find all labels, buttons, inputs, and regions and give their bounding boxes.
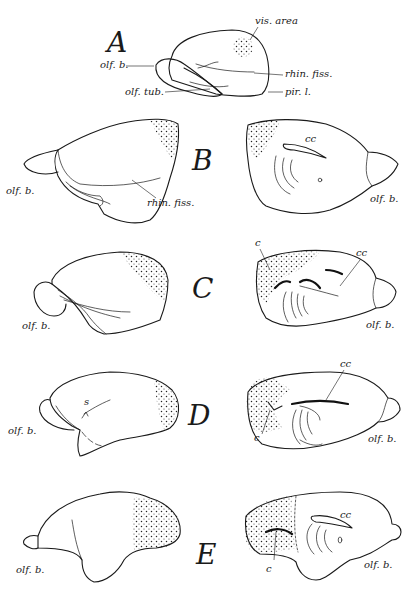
- brain-d-lateral: [40, 372, 179, 456]
- label-c-e: c: [266, 563, 272, 574]
- panel-d: D s olf. b. cc: [8, 358, 400, 456]
- label-olf-b-e-medial: olf. b.: [364, 559, 393, 570]
- label-rhin-fiss-b: rhin. fiss.: [147, 197, 194, 208]
- brain-a-lateral: [156, 30, 269, 96]
- label-s-d: s: [84, 396, 89, 407]
- label-olf-b-d-lateral: olf. b.: [8, 425, 37, 436]
- panel-letter-c: C: [192, 272, 213, 305]
- panel-letter-a: A: [104, 26, 127, 59]
- label-olf-b-c-medial: olf. b.: [366, 319, 395, 330]
- panel-c: C olf. b. c cc: [22, 237, 396, 334]
- label-olf-b-c-lateral: olf. b.: [22, 320, 51, 331]
- brain-c-medial: [256, 250, 396, 326]
- label-cc-c: cc: [356, 247, 368, 258]
- label-olf-b-b-medial: olf. b.: [370, 193, 399, 204]
- panel-letter-e: E: [195, 538, 216, 571]
- label-olf-b: olf. b.: [100, 59, 129, 70]
- panel-b: B olf. b. rhin. fiss. cc ol: [6, 119, 399, 223]
- label-vis-area: vis. area: [255, 15, 298, 26]
- label-cc-d: cc: [340, 358, 352, 369]
- label-olf-tub: olf. tub.: [125, 86, 164, 97]
- label-rhin-fiss: rhin. fiss.: [285, 68, 332, 79]
- label-olf-b-d-medial: olf. b.: [368, 433, 397, 444]
- panel-letter-b: B: [191, 144, 213, 177]
- brain-c-lateral: [34, 252, 168, 334]
- label-olf-b-e-lateral: olf. b.: [16, 564, 45, 575]
- label-cc-e: cc: [340, 509, 352, 520]
- panel-letter-d: D: [187, 399, 210, 432]
- label-cc-b: cc: [305, 133, 317, 144]
- brain-figure-plate: A vis. area olf. b. rhin. fiss. olf. tub…: [0, 0, 420, 591]
- panel-a: A vis. area olf. b. rhin. fiss. olf. tub…: [100, 15, 332, 97]
- label-c-d: c: [254, 432, 260, 443]
- panel-e: E olf. b. cc c olf. b.: [16, 492, 401, 582]
- label-c-c: c: [255, 237, 261, 248]
- brain-e-lateral: [24, 492, 181, 582]
- label-olf-b-b-lateral: olf. b.: [6, 185, 35, 196]
- label-pir-l: pir. l.: [285, 86, 311, 97]
